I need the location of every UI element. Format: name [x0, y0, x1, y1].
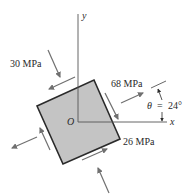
x-axis-label: x: [169, 116, 175, 127]
shear-arrow-top-face: [49, 77, 75, 89]
normal-stress-26-arrow-bottom: [98, 168, 109, 193]
rotated-axis-line: [151, 81, 166, 88]
normal-stress-26-arrow-top: [48, 50, 60, 77]
y-axis-label: y: [81, 10, 87, 21]
normal-stress-26-label: 26 MPa: [123, 136, 155, 147]
shear-stress-label: 30 MPa: [10, 58, 42, 69]
theta-symbol: θ: [147, 100, 152, 111]
normal-stress-68-arrow-right: [121, 93, 143, 103]
diagram-svg: y x O 30 MPa 68 MPa 26 MPa θ = 24°: [0, 0, 195, 195]
stress-element-diagram: y x O 30 MPa 68 MPa 26 MPa θ = 24°: [0, 0, 195, 195]
normal-stress-68-label: 68 MPa: [111, 78, 143, 89]
theta-equals: =: [157, 100, 163, 111]
origin-label: O: [67, 116, 74, 127]
normal-stress-68-arrow-left: [12, 137, 37, 148]
theta-value: 24°: [168, 100, 182, 111]
theta-arrow-top: [158, 89, 162, 100]
